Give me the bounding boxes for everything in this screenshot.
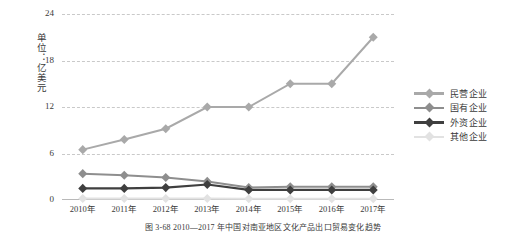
legend-label: 国有企业 [450,101,488,114]
data-point-marker [120,135,129,144]
legend-marker-icon [425,117,435,127]
legend-item-1[interactable]: 民营企业 [414,86,522,101]
series-1 [78,33,378,154]
series-line [83,37,374,149]
x-axis-tick-label: 2010年 [60,202,106,214]
series-group [62,14,394,200]
data-point-marker [161,124,170,133]
data-point-marker [78,145,87,154]
x-axis-tick-label: 2014年 [226,202,272,214]
y-axis-tick-label: 6 [32,148,54,158]
legend-item-3[interactable]: 外资企业 [414,115,522,130]
legend-swatch-icon [414,87,444,99]
legend-swatch-icon [414,131,444,143]
data-point-marker [286,79,295,88]
x-axis-tick-label: 2017年 [350,202,396,214]
legend-marker-icon [425,103,435,113]
legend-label: 其他企业 [450,130,488,143]
legend-label: 民营企业 [450,87,488,100]
legend-swatch-icon [414,116,444,128]
legend-item-2[interactable]: 国有企业 [414,101,522,116]
legend-item-4[interactable]: 其他企业 [414,130,522,145]
legend-label: 外资企业 [450,116,488,129]
figure-container: 单位：亿美元 06121824 2010年2011年2012年2013年2014… [0,0,526,240]
data-point-marker [78,169,87,178]
legend-swatch-icon [414,102,444,114]
figure-caption: 图 3-68 2010—2017 年中国对南亚地区文化产品出口贸易变化趋势 [0,221,526,232]
legend-marker-icon [425,132,435,142]
legend: 民营企业国有企业外资企业其他企业 [414,86,522,144]
y-axis-tick-label: 24 [32,8,54,18]
data-point-marker [161,183,170,192]
data-point-marker [244,102,253,111]
data-point-marker [120,184,129,193]
data-point-marker [120,171,129,180]
series-3 [78,180,378,194]
data-point-marker [78,184,87,193]
plot-area [62,14,394,200]
data-point-marker [161,173,170,182]
y-axis-tick-label: 18 [32,55,54,65]
data-point-marker [203,102,212,111]
x-axis-tick-label: 2016年 [309,202,355,214]
x-axis-tick-label: 2011年 [101,202,147,214]
y-axis-tick-label: 12 [32,101,54,111]
legend-marker-icon [425,88,435,98]
x-axis-tick-label: 2013年 [184,202,230,214]
y-axis-tick-label: 0 [32,194,54,204]
x-axis-tick-label: 2015年 [267,202,313,214]
x-axis-tick-label: 2012年 [143,202,189,214]
